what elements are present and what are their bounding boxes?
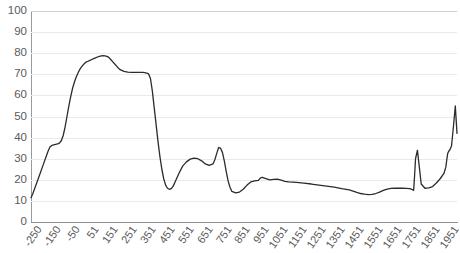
x-tick-label: 1551 bbox=[362, 224, 385, 250]
line-chart: 1009080706050403020100 -250-150-50511512… bbox=[0, 0, 460, 253]
x-tick-label: 1851 bbox=[419, 224, 442, 250]
x-axis: -250-150-5051151251351451551651751851951… bbox=[0, 224, 460, 253]
x-tick-label: 151 bbox=[100, 224, 120, 245]
x-tick-label: 1251 bbox=[305, 224, 328, 250]
series-1-path bbox=[31, 56, 457, 198]
x-tick-label: 1951 bbox=[438, 224, 460, 250]
y-tick-label: 30 bbox=[14, 153, 27, 165]
series-1-line bbox=[31, 11, 457, 222]
y-tick-label: 70 bbox=[14, 69, 27, 81]
y-tick-label: 10 bbox=[14, 195, 27, 207]
y-tick-label: 20 bbox=[14, 174, 27, 186]
y-tick-label: 100 bbox=[8, 5, 27, 17]
x-tick-label: 1651 bbox=[381, 224, 404, 250]
y-tick-label: 90 bbox=[14, 26, 27, 38]
y-tick-label: 80 bbox=[14, 47, 27, 59]
x-tick-label: 851 bbox=[233, 224, 253, 245]
x-tick-label: -250 bbox=[22, 224, 44, 248]
x-tick-label: -150 bbox=[41, 224, 63, 248]
y-tick-label: 60 bbox=[14, 90, 27, 102]
x-tick-label: -50 bbox=[64, 224, 82, 243]
x-tick-label: 751 bbox=[214, 224, 234, 245]
x-tick-label: 251 bbox=[119, 224, 139, 245]
plot-area bbox=[31, 11, 457, 222]
y-axis: 1009080706050403020100 bbox=[0, 0, 30, 253]
x-tick-label: 551 bbox=[176, 224, 196, 245]
x-tick-label: 651 bbox=[195, 224, 215, 245]
x-tick-label: 1051 bbox=[267, 224, 290, 250]
x-tick-label: 1151 bbox=[287, 224, 310, 250]
x-tick-label: 451 bbox=[157, 224, 177, 245]
x-tick-label: 351 bbox=[138, 224, 158, 245]
y-tick-label: 50 bbox=[14, 111, 27, 123]
x-tick-label: 1451 bbox=[343, 224, 366, 250]
x-tick-label: 1351 bbox=[324, 224, 347, 250]
y-tick-label: 40 bbox=[14, 132, 27, 144]
x-axis-line bbox=[31, 222, 458, 223]
x-tick-label: 1751 bbox=[400, 224, 423, 250]
